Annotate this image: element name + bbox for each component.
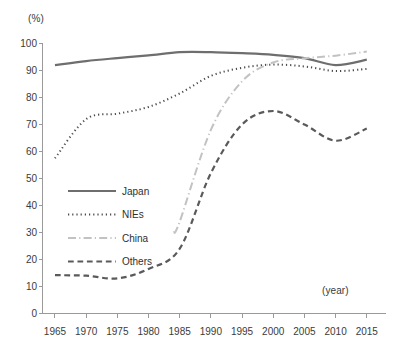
y-axis-tick-labels: 0102030405060708090100 <box>20 38 37 319</box>
series-line-nies <box>55 65 367 159</box>
series-line-others <box>55 111 367 279</box>
x-axis-tick-label: 1985 <box>169 326 192 337</box>
chart-legend: JapanNIEsChinaOthers <box>68 186 152 268</box>
x-axis-tick-label: 1990 <box>200 326 223 337</box>
y-axis-tick-label: 30 <box>26 227 38 238</box>
y-axis-tick-label: 70 <box>26 119 38 130</box>
series-line-japan <box>55 52 367 65</box>
y-axis-tick-marks <box>39 44 43 314</box>
legend-label-nies: NIEs <box>122 209 144 220</box>
x-axis-tick-label: 2010 <box>324 326 347 337</box>
y-axis-tick-label: 100 <box>20 38 37 49</box>
x-axis-tick-label: 2015 <box>356 326 379 337</box>
y-axis-tick-label: 40 <box>26 200 38 211</box>
x-axis-tick-marks <box>55 314 367 318</box>
x-axis-tick-label: 2000 <box>262 326 285 337</box>
y-axis-tick-label: 20 <box>26 254 38 265</box>
x-axis-tick-label: 1970 <box>75 326 98 337</box>
y-axis-tick-label: 60 <box>26 146 38 157</box>
y-axis-tick-label: 0 <box>31 308 37 319</box>
chart-series-lines <box>55 52 367 279</box>
y-axis-tick-label: 80 <box>26 92 38 103</box>
x-axis-tick-labels: 1965197019751980198519901995200020052010… <box>44 326 379 337</box>
chart-plot-area: 0102030405060708090100 19651970197519801… <box>0 0 406 353</box>
series-line-china <box>173 52 366 233</box>
y-axis-tick-label: 10 <box>26 281 38 292</box>
x-axis-tick-label: 1975 <box>106 326 129 337</box>
chart-container: (%) (year) 0102030405060708090100 196519… <box>0 0 406 353</box>
x-axis-tick-label: 1965 <box>44 326 67 337</box>
y-axis-tick-label: 90 <box>26 65 38 76</box>
legend-label-others: Others <box>122 256 152 267</box>
y-axis-tick-label: 50 <box>26 173 38 184</box>
x-axis-tick-label: 2005 <box>293 326 316 337</box>
legend-label-china: China <box>122 233 149 244</box>
x-axis-tick-label: 1980 <box>137 326 160 337</box>
legend-label-japan: Japan <box>122 186 149 197</box>
x-axis-tick-label: 1995 <box>231 326 254 337</box>
